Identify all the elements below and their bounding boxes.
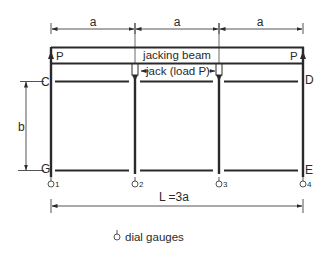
dial-gauge-icon xyxy=(114,230,120,240)
height-label: b xyxy=(18,120,25,134)
dial-gauge-icon xyxy=(48,177,54,187)
interior-posts xyxy=(135,78,219,174)
legend: dial gauges xyxy=(114,230,184,243)
jack-icon xyxy=(132,64,138,75)
arrow-down-icon xyxy=(216,75,222,81)
corner-label-c: C xyxy=(41,75,50,89)
jacking-beam-label: jacking beam xyxy=(142,49,211,61)
load-label-right: P xyxy=(290,50,298,62)
dial-gauge-3: 3 xyxy=(216,177,228,189)
load-arrow-left-icon xyxy=(48,51,54,59)
corner-label-d: D xyxy=(305,73,314,87)
svg-text:1: 1 xyxy=(55,180,60,189)
svg-text:2: 2 xyxy=(139,180,144,189)
svg-text:4: 4 xyxy=(307,180,312,189)
dial-gauge-2: 2 xyxy=(132,177,144,189)
total-length-label: L =3a xyxy=(159,190,189,204)
jack-2 xyxy=(132,64,138,81)
load-label-left: P xyxy=(56,50,64,62)
corner-label-e: E xyxy=(305,163,313,177)
span-label-3: a xyxy=(257,15,264,29)
test-frame-diagram: a a a jacking beam jack (load P) P P xyxy=(0,0,326,255)
dial-gauge-icon xyxy=(132,177,138,187)
dial-gauge-4: 4 xyxy=(300,177,312,189)
dial-gauge-icon xyxy=(216,177,222,187)
dial-gauge-icon xyxy=(300,177,306,187)
load-arrow-right-icon xyxy=(300,51,306,59)
corner-label-g: G xyxy=(41,162,50,176)
dial-gauge-1: 1 xyxy=(48,177,60,189)
legend-label: dial gauges xyxy=(125,231,184,243)
jack-3 xyxy=(216,64,222,81)
span-label-1: a xyxy=(90,15,97,29)
jack-icon xyxy=(216,64,222,75)
span-label-2: a xyxy=(174,15,181,29)
jack-label: jack (load P) xyxy=(145,65,210,77)
svg-text:3: 3 xyxy=(223,180,228,189)
arrow-down-icon xyxy=(132,75,138,81)
